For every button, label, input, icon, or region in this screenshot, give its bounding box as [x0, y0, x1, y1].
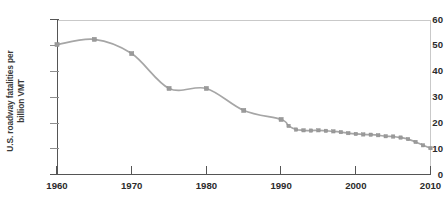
data-point-2009: [421, 144, 424, 147]
data-point-2007: [406, 137, 409, 140]
data-point-1965: [92, 37, 96, 41]
data-point-2006: [399, 136, 402, 139]
data-point-1994: [309, 129, 312, 132]
data-point-1985: [242, 108, 246, 112]
data-point-2008: [414, 140, 417, 143]
data-point-1997: [332, 130, 335, 133]
data-point-2003: [377, 134, 380, 137]
data-point-markers: [55, 37, 432, 150]
data-point-1991: [287, 124, 290, 127]
data-point-1975: [167, 86, 171, 90]
data-point-2004: [384, 135, 387, 138]
data-point-1970: [130, 51, 134, 55]
data-point-1990: [279, 117, 283, 121]
fatality-rate-line: [57, 39, 431, 148]
data-point-1980: [204, 86, 208, 90]
data-point-1995: [317, 129, 320, 132]
data-point-2000: [354, 132, 357, 135]
data-point-2002: [369, 133, 372, 136]
data-point-1999: [347, 131, 350, 134]
data-point-1993: [302, 129, 305, 132]
data-point-2005: [391, 135, 394, 138]
data-point-2010: [429, 146, 432, 149]
data-point-1960: [55, 42, 59, 46]
data-point-1996: [324, 129, 327, 132]
data-point-2001: [362, 133, 365, 136]
data-point-1998: [339, 130, 342, 133]
data-point-1992: [294, 128, 297, 131]
